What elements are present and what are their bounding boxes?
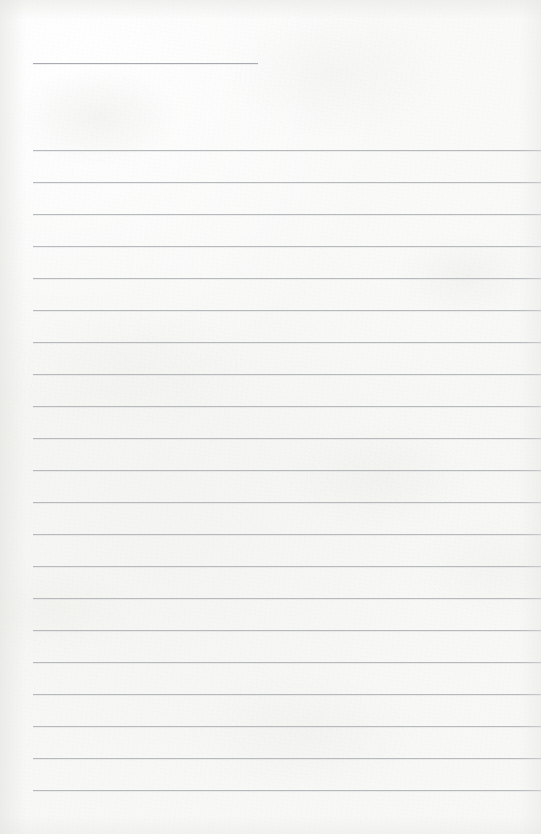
ruled-line [33,182,541,183]
ruled-lines-layer [0,0,541,834]
ruled-line [33,278,541,279]
ruled-line [33,758,541,759]
ruled-line [33,598,541,599]
ruled-line [33,470,541,471]
ruled-line [33,534,541,535]
ruled-line [33,726,541,727]
ruled-line [33,150,541,151]
ruled-line [33,502,541,503]
ruled-line [33,214,541,215]
notebook-page [0,0,541,834]
title-rule [33,63,258,64]
ruled-line [33,566,541,567]
ruled-line [33,374,541,375]
ruled-line [33,246,541,247]
ruled-line [33,662,541,663]
ruled-line [33,630,541,631]
ruled-line [33,342,541,343]
ruled-line [33,438,541,439]
ruled-line [33,790,541,791]
ruled-line [33,406,541,407]
ruled-line [33,310,541,311]
ruled-line [33,694,541,695]
